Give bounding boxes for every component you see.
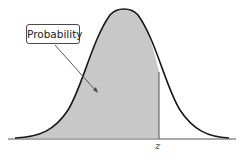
z-axis-label: z: [155, 140, 160, 151]
probability-callout: Probability: [26, 24, 80, 44]
